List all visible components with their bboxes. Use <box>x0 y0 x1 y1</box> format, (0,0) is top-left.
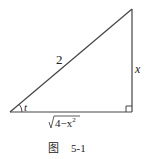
figure-caption: 图5-1 <box>48 139 86 155</box>
caption-number: 5-1 <box>71 142 86 154</box>
adjacent-label: 4−x2 <box>55 116 76 129</box>
right-triangle-diagram <box>0 0 151 159</box>
caption-prefix: 图 <box>48 142 59 154</box>
hypotenuse-label: 2 <box>56 52 63 68</box>
opposite-label: x <box>135 62 140 77</box>
adjacent-exponent: 2 <box>72 116 76 124</box>
angle-arc-icon <box>19 104 22 112</box>
right-angle-marker-icon <box>126 106 132 112</box>
angle-label: t <box>24 101 27 113</box>
hypotenuse <box>10 9 132 112</box>
adjacent-radicand: 4−x <box>55 117 72 129</box>
